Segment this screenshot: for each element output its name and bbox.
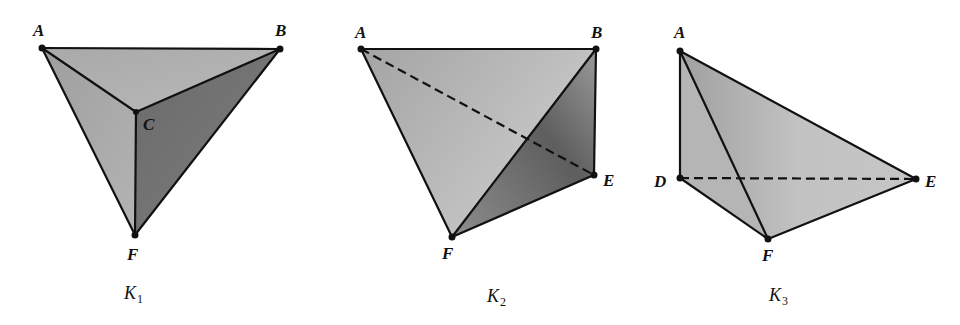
label-f: F bbox=[441, 244, 454, 263]
vertex-f bbox=[449, 234, 456, 241]
label-e: E bbox=[602, 171, 614, 190]
figure-k3: A D E F K 3 bbox=[653, 23, 936, 308]
vertex-f bbox=[132, 232, 139, 239]
label-a: A bbox=[673, 23, 685, 42]
edge-cf bbox=[135, 112, 136, 235]
vertex-b bbox=[277, 46, 284, 53]
vertex-e bbox=[591, 172, 598, 179]
edge-ab bbox=[42, 48, 280, 49]
vertex-a bbox=[39, 45, 46, 52]
vertex-b bbox=[593, 46, 600, 53]
caption-k1-subscript: 1 bbox=[137, 292, 143, 306]
caption-k2-subscript: 2 bbox=[500, 295, 506, 309]
vertex-d bbox=[677, 175, 684, 182]
vertex-c bbox=[133, 109, 139, 115]
caption-k3-subscript: 3 bbox=[782, 294, 788, 308]
vertex-a bbox=[358, 46, 365, 53]
figure-k2: A B E F K 2 bbox=[354, 23, 614, 309]
label-f: F bbox=[761, 246, 774, 265]
label-c: C bbox=[143, 115, 155, 134]
vertex-a bbox=[677, 48, 684, 55]
edge-de-hidden bbox=[680, 178, 916, 179]
figure-canvas: A B C F K 1 A B E F K 2 bbox=[0, 0, 960, 325]
label-a: A bbox=[32, 21, 44, 40]
figure-k1: A B C F K 1 bbox=[32, 21, 286, 306]
label-b: B bbox=[274, 21, 286, 40]
caption-k2: K bbox=[486, 286, 500, 306]
caption-k3: K bbox=[768, 285, 782, 305]
label-b: B bbox=[590, 23, 602, 42]
label-f: F bbox=[126, 245, 139, 264]
label-a: A bbox=[354, 23, 366, 42]
caption-k1: K bbox=[123, 283, 137, 303]
label-e: E bbox=[924, 172, 936, 191]
label-d: D bbox=[653, 172, 666, 191]
vertex-e bbox=[913, 176, 920, 183]
vertex-f bbox=[765, 236, 772, 243]
